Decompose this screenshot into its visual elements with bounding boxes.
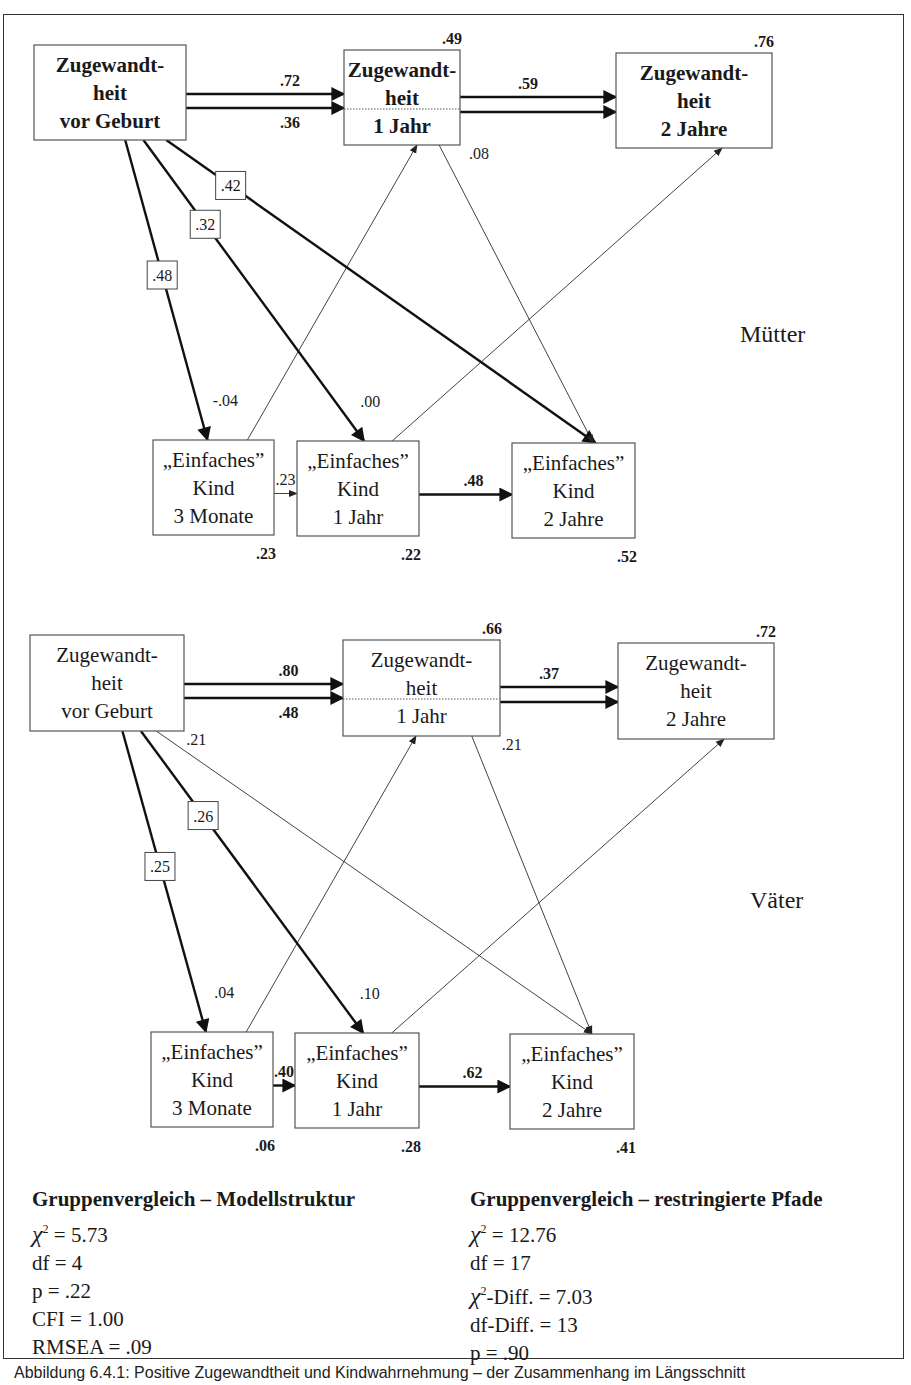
node-label-line: „Einfaches” (161, 1040, 262, 1064)
chi-square-symbol: χ2 (470, 1283, 487, 1309)
path-arrow (141, 731, 363, 1033)
node-label-line: Kind (336, 1069, 379, 1093)
node-e2: „Einfaches”Kind2 Jahre.52 (512, 443, 637, 565)
node-label-line: Zugewandt- (371, 648, 472, 672)
node-z0: Zugewandt-heitvor Geburt (30, 635, 184, 731)
node-z0: Zugewandt-heitvor Geburt (34, 45, 186, 140)
stats-model-structure: Gruppenvergleich – Modellstruktur χ2 = 5… (32, 1185, 355, 1361)
explained-variance: .49 (442, 30, 462, 47)
path-coefficient: .26 (193, 808, 213, 825)
node-label-line: heit (385, 86, 419, 110)
node-label-line: Kind (551, 1070, 594, 1094)
node-z2: Zugewandt-heit2 Jahre.72 (618, 623, 776, 739)
path-coefficient: .48 (152, 267, 172, 284)
explained-variance: .41 (616, 1139, 636, 1156)
node-label-line: Kind (191, 1068, 234, 1092)
stats-line: p = .22 (32, 1277, 355, 1305)
node-label-line: Zugewandt- (640, 61, 749, 85)
group-label: Mütter (740, 321, 805, 347)
path-coefficient: .04 (214, 984, 234, 1001)
group-mothers: .72.36.59.48.32.42-.04.00.08.23.48Zugewa… (34, 30, 805, 565)
path-coefficient: .42 (221, 177, 241, 194)
node-label-line: Zugewandt- (56, 643, 157, 667)
node-label-line: 2 Jahre (543, 507, 603, 531)
path-arrow (122, 731, 205, 1032)
stats-line: CFI = 1.00 (32, 1305, 355, 1333)
stats-title: Gruppenvergleich – restringierte Pfade (470, 1185, 822, 1213)
node-label-line: 2 Jahre (542, 1098, 602, 1122)
path-coefficient: .72 (280, 72, 300, 89)
node-label-line: „Einfaches” (163, 448, 264, 472)
stats-line: χ2 = 5.73 (32, 1215, 355, 1249)
stats-line: χ2 = 12.76 (470, 1215, 822, 1249)
group-fathers: .80.48.37.25.26.21.04.10.21.40.62Zugewan… (30, 620, 803, 1156)
path-coefficient: .40 (274, 1063, 294, 1080)
explained-variance: .22 (401, 546, 421, 563)
path-arrow (392, 148, 722, 441)
stats-title: Gruppenvergleich – Modellstruktur (32, 1185, 355, 1213)
node-label-line: Kind (553, 479, 596, 503)
node-e1: „Einfaches”Kind1 Jahr.22 (297, 441, 421, 563)
path-coefficient: .00 (360, 393, 380, 410)
stats-restricted-paths: Gruppenvergleich – restringierte Pfade χ… (470, 1185, 822, 1367)
stats-line: df-Diff. = 13 (470, 1311, 822, 1339)
path-coefficient: .48 (279, 704, 299, 721)
node-label-line: Zugewandt- (348, 58, 457, 82)
path-arrow (143, 140, 364, 441)
path-coefficient: .48 (464, 472, 484, 489)
node-label-line: „Einfaches” (306, 1041, 407, 1065)
stats-line: RMSEA = .09 (32, 1333, 355, 1361)
explained-variance: .66 (482, 620, 502, 637)
path-coefficient: .25 (150, 858, 170, 875)
path-coefficient: .37 (539, 665, 559, 682)
node-label-line: Zugewandt- (56, 53, 165, 77)
path-diagram: .72.36.59.48.32.42-.04.00.08.23.48Zugewa… (0, 0, 911, 1385)
node-e0: „Einfaches”Kind3 Monate.23 (153, 440, 276, 562)
node-label-line: „Einfaches” (523, 451, 624, 475)
stats-line: df = 4 (32, 1249, 355, 1277)
node-e0: „Einfaches”Kind3 Monate.06 (151, 1032, 275, 1154)
node-label-line: Zugewandt- (645, 651, 746, 675)
path-coefficient: .32 (195, 216, 215, 233)
path-coefficient: .59 (518, 75, 538, 92)
node-label-line: 1 Jahr (333, 505, 384, 529)
chi-square-symbol: χ2 (32, 1221, 49, 1247)
stats-line: χ2-Diff. = 7.03 (470, 1277, 822, 1311)
node-label-line: heit (406, 676, 438, 700)
path-coefficient: .62 (463, 1064, 483, 1081)
node-label-line: heit (91, 671, 123, 695)
explained-variance: .23 (256, 545, 276, 562)
path-coefficient: .23 (276, 471, 296, 488)
node-label-line: Kind (193, 476, 236, 500)
node-z1: Zugewandt-heit1 Jahr.66 (343, 620, 502, 736)
group-label: Väter (750, 887, 803, 913)
node-label-line: 3 Monate (172, 1096, 252, 1120)
node-label-line: vor Geburt (60, 109, 161, 133)
node-label-line: heit (680, 679, 712, 703)
node-label-line: heit (93, 81, 127, 105)
node-z2: Zugewandt-heit2 Jahre.76 (616, 33, 774, 148)
path-coefficient: .21 (502, 736, 522, 753)
path-coefficient: .80 (279, 662, 299, 679)
node-label-line: 2 Jahre (661, 117, 728, 141)
node-label-line: vor Geburt (61, 699, 153, 723)
explained-variance: .28 (401, 1138, 421, 1155)
path-arrow (439, 145, 593, 443)
path-coefficient: .10 (360, 985, 380, 1002)
node-label-line: 1 Jahr (332, 1097, 383, 1121)
path-arrow (392, 739, 724, 1033)
path-arrow (472, 736, 592, 1034)
stats-line: df = 17 (470, 1249, 822, 1277)
node-label-line: heit (677, 89, 711, 113)
path-arrow (125, 140, 207, 440)
node-label-line: 1 Jahr (396, 704, 447, 728)
path-coefficient: .21 (186, 731, 206, 748)
explained-variance: .72 (756, 623, 776, 640)
node-label-line: Kind (337, 477, 380, 501)
stats-line: p = .90 (470, 1339, 822, 1367)
node-label-line: 2 Jahre (666, 707, 726, 731)
path-coefficient: .36 (280, 114, 300, 131)
node-e2: „Einfaches”Kind2 Jahre.41 (510, 1034, 636, 1156)
node-e1: „Einfaches”Kind1 Jahr.28 (295, 1033, 421, 1155)
path-coefficient: -.04 (213, 392, 238, 409)
